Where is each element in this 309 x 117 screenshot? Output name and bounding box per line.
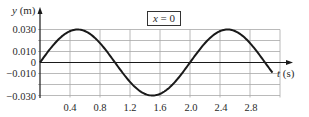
y-tick-label: −0.010 <box>6 68 36 79</box>
y-tick-label: 0.030 <box>12 24 36 35</box>
x-tick-label: 2.8 <box>244 102 257 113</box>
x-tick-label: 1.2 <box>123 102 136 113</box>
x-tick-label: 1.6 <box>153 102 166 113</box>
position-annotation: x = 0 <box>148 12 181 26</box>
grid <box>38 30 280 98</box>
x-tick-label: 0.4 <box>63 102 77 113</box>
x-tick-label: 2.4 <box>214 102 228 113</box>
x-axis-label: t (s) <box>277 67 295 80</box>
x-tick-label: 2.0 <box>184 102 197 113</box>
y-tick-label: 0.010 <box>12 46 36 57</box>
x-tick-label: 0.8 <box>93 102 106 113</box>
y-axis-arrow-icon <box>38 7 43 14</box>
y-axis-label: y (m) <box>11 4 36 17</box>
annotation-eq: = 0 <box>158 12 176 24</box>
y-tick-label: −0.030 <box>6 91 36 102</box>
x-axis-label-unit: (s) <box>280 67 295 80</box>
x-axis-arrow-icon <box>286 60 293 65</box>
x-tick-labels: 0.4 0.8 1.2 1.6 2.0 2.4 2.8 <box>63 102 257 113</box>
y-tick-label: 0 <box>31 57 36 68</box>
y-axis-label-unit: (m) <box>17 4 36 17</box>
y-tick-labels: 0.030 0.010 0 −0.010 −0.030 <box>6 24 36 102</box>
chart: 0.030 0.010 0 −0.010 −0.030 0.4 0.8 1.2 … <box>0 0 309 117</box>
annotation-text: x = 0 <box>152 12 176 24</box>
